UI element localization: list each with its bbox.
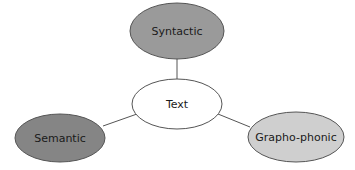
node-syntactic-label: Syntactic — [152, 25, 203, 38]
node-semantic: Semantic — [15, 114, 105, 162]
connector-grapho-phonic — [218, 114, 250, 127]
cueing-systems-diagram: Syntactic Text Semantic Grapho-phonic — [0, 0, 355, 170]
connector-semantic — [103, 114, 137, 126]
node-text-label: Text — [165, 98, 189, 111]
node-grapho-phonic-label: Grapho-phonic — [255, 131, 336, 144]
node-grapho-phonic: Grapho-phonic — [248, 112, 344, 162]
node-syntactic: Syntactic — [130, 3, 224, 59]
node-semantic-label: Semantic — [34, 132, 86, 145]
node-text: Text — [132, 79, 222, 129]
